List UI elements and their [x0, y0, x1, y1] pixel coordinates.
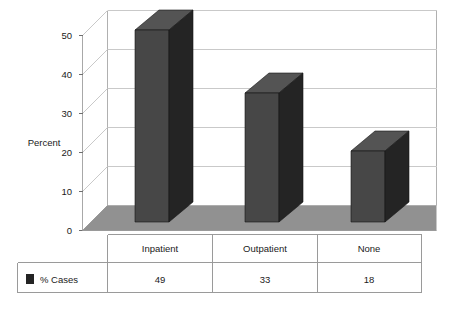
category-label-none: None — [358, 243, 381, 254]
y-axis-title: Percent — [28, 137, 61, 148]
chart-figure: 50 40 30 20 10 0 Percent — [0, 0, 458, 310]
y-tick-label-10: 10 — [61, 186, 72, 197]
y-tick-label-20: 20 — [61, 147, 72, 158]
y-axis — [79, 36, 83, 231]
series-label: % Cases — [40, 274, 78, 285]
category-label-inpatient: Inpatient — [142, 243, 179, 254]
y-tick-label-50: 50 — [61, 30, 72, 41]
y-tick-label-0: 0 — [67, 225, 72, 236]
series-color-swatch — [26, 274, 34, 284]
value-cell-none: 18 — [364, 274, 375, 285]
bar-outpatient[interactable] — [245, 73, 303, 222]
bar-inpatient[interactable] — [135, 10, 193, 222]
category-label-outpatient: Outpatient — [243, 243, 287, 254]
value-cell-outpatient: 33 — [260, 274, 271, 285]
bar-none[interactable] — [351, 131, 409, 222]
chart-canvas: 50 40 30 20 10 0 Percent — [0, 0, 458, 310]
data-table: Inpatient Outpatient None % Cases 49 33 … — [18, 235, 422, 293]
y-axis-tick-labels: 50 40 30 20 10 0 — [61, 30, 72, 236]
value-cell-inpatient: 49 — [155, 274, 166, 285]
y-tick-label-40: 40 — [61, 69, 72, 80]
gridlines-depth — [83, 11, 108, 231]
y-tick-label-30: 30 — [61, 108, 72, 119]
